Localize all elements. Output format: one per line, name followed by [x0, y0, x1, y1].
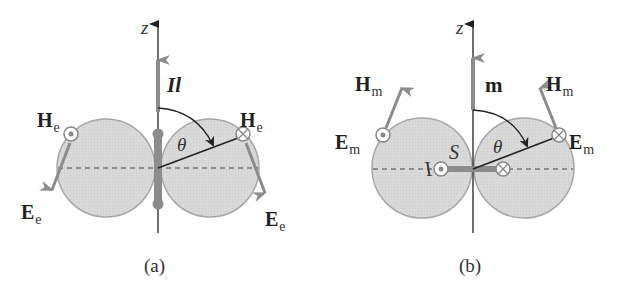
z-axis-label: z	[140, 17, 149, 38]
theta-label: θ	[177, 134, 186, 155]
e-field-label-right: Em	[569, 131, 594, 157]
e-field-label-left: Ee	[21, 201, 42, 227]
current-into-page-icon	[496, 162, 510, 176]
theta-label: θ	[493, 136, 502, 157]
e-field-into-page-icon	[552, 128, 566, 142]
loop-area-label: S	[449, 141, 459, 163]
current-label: I	[424, 158, 433, 180]
panel-a: z Il θ He He Ee Ee (a)	[21, 17, 286, 277]
h-field-arrow-left	[386, 88, 402, 128]
panel-b: z m I S θ	[335, 17, 594, 277]
panel-b-caption: (b)	[459, 255, 481, 277]
e-field-label-right: Ee	[265, 208, 286, 234]
current-out-of-page-icon	[434, 162, 448, 176]
panel-a-caption: (a)	[144, 255, 165, 277]
e-field-out-of-page-icon	[376, 128, 390, 142]
z-axis-label: z	[455, 17, 464, 38]
h-field-label-right: Hm	[546, 73, 574, 99]
e-field-label-left: Em	[335, 131, 360, 157]
h-field-out-of-page-icon	[64, 127, 78, 141]
magnetic-moment-label: m	[485, 73, 503, 97]
h-field-label-left: Hm	[355, 73, 383, 99]
dipole-radiation-figure: z Il θ He He Ee Ee (a)	[0, 0, 619, 296]
h-field-label-left: He	[37, 109, 60, 135]
electric-dipole	[153, 129, 164, 210]
current-element-label: Il	[166, 73, 181, 97]
